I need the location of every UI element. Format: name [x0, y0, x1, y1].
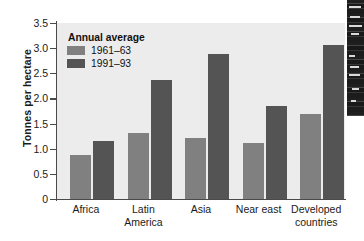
- y-axis-tick-label: 0: [2, 193, 48, 205]
- y-axis-tick: [50, 124, 57, 125]
- y-axis-tick: [50, 48, 57, 49]
- y-axis-tick-label: 2.5: [2, 67, 48, 79]
- bar-group: [182, 23, 230, 199]
- bar-1991-93: [151, 80, 172, 199]
- bar-1961-63: [185, 138, 206, 199]
- bar-1991-93: [208, 54, 229, 199]
- legend-item-1991-93: 1991–93: [67, 58, 145, 69]
- legend-label-1991-93: 1991–93: [91, 58, 131, 69]
- legend-label-1961-63: 1961–63: [91, 45, 131, 56]
- y-axis-tick-label: 1.5: [2, 118, 48, 130]
- bar-1961-63: [70, 155, 91, 199]
- y-axis-tick: [50, 149, 57, 150]
- x-axis-label-line: countries: [277, 216, 355, 229]
- legend-swatch-1961-63-icon: [67, 46, 85, 55]
- bar-1991-93: [323, 45, 344, 199]
- bar-1991-93: [266, 106, 287, 199]
- bar-1961-63: [128, 133, 149, 199]
- y-axis-tick-label: 3.5: [2, 17, 48, 29]
- scan-edge-artifact: [347, 0, 364, 116]
- y-axis-tick: [50, 73, 57, 74]
- x-axis-tick-label: Developedcountries: [277, 203, 355, 228]
- legend-item-1961-63: 1961–63: [67, 45, 145, 56]
- bar-group: [297, 23, 345, 199]
- y-axis-tick-label: 2.0: [2, 92, 48, 104]
- bar-1961-63: [300, 114, 321, 199]
- y-axis-tick: [50, 98, 57, 99]
- y-axis-tick-label: 1.0: [2, 143, 48, 155]
- x-axis-label-line: Developed: [277, 203, 355, 216]
- y-axis-tick: [50, 199, 57, 200]
- y-axis-tick: [50, 174, 57, 175]
- chart-legend: Annual average 1961–63 1991–93: [63, 28, 152, 74]
- legend-title: Annual average: [68, 32, 145, 43]
- bar-1961-63: [243, 143, 264, 199]
- legend-swatch-1991-93-icon: [67, 59, 85, 68]
- x-axis-label-line: America: [105, 216, 183, 229]
- y-axis-tick-label: 0.5: [2, 168, 48, 180]
- bar-1991-93: [93, 141, 114, 199]
- chart-screenshot: Tonnes per hectare 3.53.02.52.01.51.00.5…: [0, 0, 364, 241]
- y-axis-tick-label: 3.0: [2, 42, 48, 54]
- bar-group: [240, 23, 288, 199]
- y-axis-tick: [50, 23, 57, 24]
- x-axis-line: [56, 199, 346, 200]
